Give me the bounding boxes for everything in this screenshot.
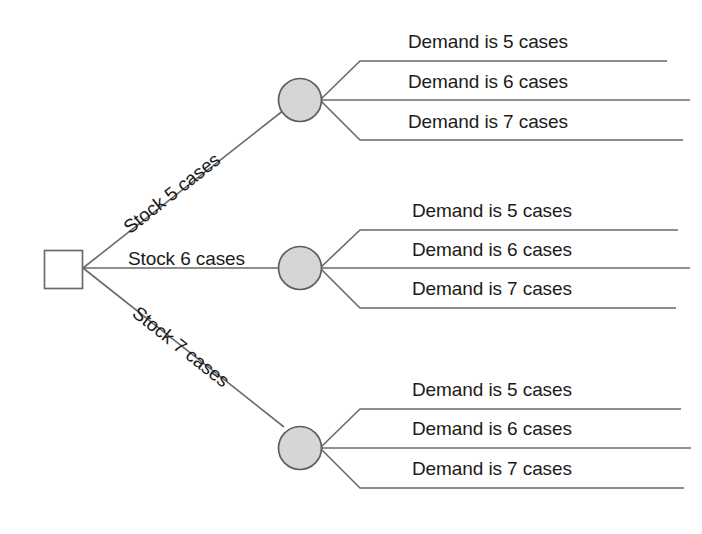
- outcome-label-bottom-demand-5: Demand is 5 cases: [412, 380, 572, 400]
- decision-node[interactable]: [45, 251, 83, 289]
- tree-connector-graphics: [0, 0, 702, 534]
- outcome-label-top-demand-5: Demand is 5 cases: [408, 32, 568, 52]
- chance-node-stock-5[interactable]: [279, 79, 322, 122]
- chance-node-stock-7[interactable]: [279, 427, 322, 470]
- outcome-label-top-demand-7: Demand is 7 cases: [408, 112, 568, 132]
- outcome-label-middle-demand-6: Demand is 6 cases: [412, 240, 572, 260]
- outcome-label-bottom-demand-6: Demand is 6 cases: [412, 419, 572, 439]
- decision-tree-diagram: Stock 5 cases Stock 6 cases Stock 7 case…: [0, 0, 702, 534]
- outcome-label-middle-demand-7: Demand is 7 cases: [412, 279, 572, 299]
- outcome-label-bottom-demand-7: Demand is 7 cases: [412, 459, 572, 479]
- chance-node-stock-6[interactable]: [279, 247, 322, 290]
- outcome-label-top-demand-6: Demand is 6 cases: [408, 72, 568, 92]
- outcome-label-middle-demand-5: Demand is 5 cases: [412, 201, 572, 221]
- branch-label-stock-6: Stock 6 cases: [128, 249, 245, 269]
